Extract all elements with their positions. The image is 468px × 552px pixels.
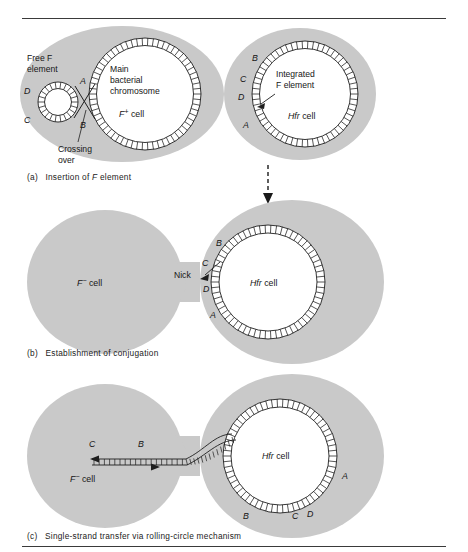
gene-marker-b-a: B [80,120,86,130]
panel-c-graphic: Hfr cell F− cell C B A B C D [0,376,468,552]
gene-marker-c-hfr-c: C [292,511,299,521]
main-chromosome-label-line2: bacterial [110,75,143,85]
panel-b: F− cell Hfr cell Nick B C D A (b) Es [0,196,468,368]
gene-marker-a-hfr-b: A [209,310,216,320]
hfr-chromosome-a [252,41,358,147]
free-f-element-label-line1: Free F [27,53,52,63]
free-f-element-label-line2: element [27,64,58,74]
gene-marker-c-hfr-a: C [240,74,247,84]
gene-marker-b-hfr-a: B [252,53,258,63]
gene-marker-d-hfr-b: D [203,284,210,294]
crossing-over-label-line1: Crossing [58,144,92,154]
figure-hfr-conjugation: Free F element D C A B Main bacterial ch… [0,0,468,552]
gene-marker-d-hfr-a: D [238,92,245,102]
caption-c: (c) Single-strand transfer via rolling-c… [27,531,241,541]
gene-marker-c-a: C [24,115,31,125]
free-f-element-ring [38,82,78,122]
f-plus-cell-label: F+ cell [119,108,144,119]
gene-marker-b-hfr-c: B [243,511,249,521]
gene-marker-d-a: D [24,86,31,96]
f-minus-cell-label-b: F− cell [77,277,102,288]
gene-marker-b-transferred: B [138,439,144,449]
integrated-f-label-line2: F element [276,80,315,90]
caption-b-text: Establishment of conjugation [45,348,158,358]
nick-label: Nick [174,270,191,280]
hfr-cell-label-c: Hfr cell [262,451,289,461]
gene-marker-c-hfr-b: C [202,258,209,268]
caption-c-prefix: (c) [27,531,37,541]
top-rule [22,18,446,19]
hfr-cell-label-a: Hfr cell [288,111,315,121]
hfr-cell-label-b: Hfr cell [250,278,277,288]
gene-marker-a-hfr-a: A [242,120,249,130]
gene-marker-c-transferred: C [89,439,96,449]
main-chromosome-label-line3: chromosome [110,86,160,96]
gene-marker-d-hfr-c: D [307,509,314,519]
f-minus-cell-label-c: F− cell [70,473,95,484]
gene-marker-b-hfr-b: B [216,238,222,248]
gene-marker-a-hfr-c: A [341,471,348,481]
main-chromosome-label-line1: Main [110,64,129,74]
caption-b-prefix: (b) [27,348,38,358]
caption-b: (b) Establishment of conjugation [27,348,159,358]
panel-b-graphic: F− cell Hfr cell Nick B C D A [0,196,468,368]
integrated-f-label-line1: Integrated [276,69,315,79]
panel-c: Hfr cell F− cell C B A B C D (c) Single-… [0,376,468,552]
caption-c-text: Single-strand transfer via rolling-circl… [45,531,241,541]
gene-marker-a-a: A [79,76,86,86]
